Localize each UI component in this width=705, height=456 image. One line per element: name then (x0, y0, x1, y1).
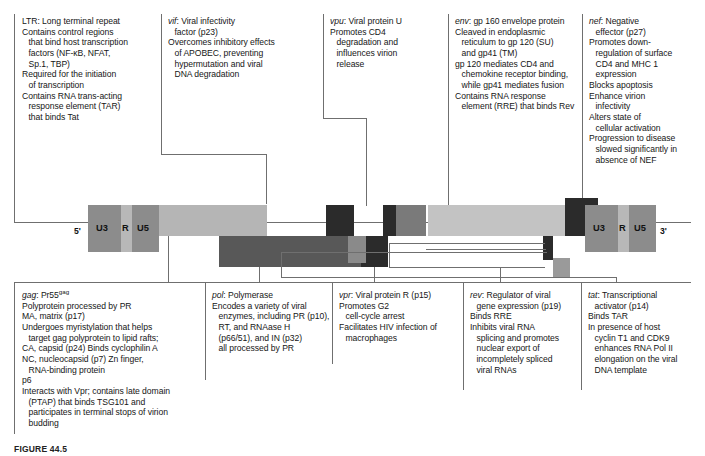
annotation-line: degradation and (330, 37, 455, 48)
annotation-tat: tat: Transcriptionalactivator (p14)Binds… (588, 290, 703, 375)
annotation-line: Binds RRE (470, 311, 588, 322)
leader-pol-v (259, 267, 260, 282)
annotation-line: (PTAP) that binds TSG101 and (22, 397, 202, 408)
divider-bottom-2 (205, 282, 206, 380)
annotation-line: Progression to disease (589, 133, 704, 144)
annotation-line: Contains control regions (22, 27, 172, 38)
annotation-line: Interacts with Vpr; contains late domain (22, 386, 202, 397)
annotation-line: RNA-binding protein (22, 365, 202, 376)
annotation-line: Promotes down- (589, 37, 704, 48)
splice-rail-rev-2 (389, 267, 545, 268)
annotation-line: Sp.1, TBP) (22, 59, 172, 70)
annotation-line: nef: Negative (589, 16, 704, 27)
annotation-line: Contains RNA trans-acting (22, 91, 172, 102)
annotation-vpu: vpu: Viral protein UPromotes CD4degradat… (330, 16, 455, 69)
gene-name: vpr (339, 290, 351, 300)
annotation-line: absence of NEF (589, 155, 704, 166)
gene-block-gag (159, 205, 267, 236)
ltr5-r-label: R (122, 224, 129, 233)
annotation-line: activator (p14) (588, 301, 703, 312)
splice-rail-tat-left (281, 252, 282, 278)
gene-block-tat-exon1 (348, 236, 366, 263)
annotation-line: viral RNAs (470, 365, 588, 376)
ltr5-u3-label: U3 (96, 224, 108, 233)
annotation-line: RT, and RNAase H (212, 322, 337, 333)
annotation-line: Alters state of (589, 112, 704, 123)
annotation-line: hypermutation and viral (168, 59, 313, 70)
annotation-line: that bind host transcription (22, 37, 172, 48)
annotation-line: DNA template (588, 365, 703, 376)
annotation-line: enzymes, including PR (p10), (212, 311, 337, 322)
gene-block-vpu (395, 205, 426, 236)
divider-top-5 (582, 14, 583, 210)
annotation-line: of APOBEC, preventing (168, 48, 313, 59)
annotation-line: LTR: Long terminal repeat (22, 16, 172, 27)
annotation-line: effector (p27) (589, 27, 704, 38)
annotation-line: cellular activation (589, 123, 704, 134)
three-prime-label: 3' (660, 227, 667, 236)
annotation-line: release (330, 59, 455, 70)
annotation-line: infectivity (589, 101, 704, 112)
gene-name: nef (589, 16, 601, 26)
annotation-line: influences virion (330, 48, 455, 59)
leader-vif-v (266, 154, 267, 204)
annotation-line: Facilitates HIV infection of (339, 322, 467, 333)
annotation-line: Promotes G2 (339, 301, 467, 312)
leader-vpu-h (323, 118, 367, 119)
annotation-line: Encodes a variety of viral (212, 301, 337, 312)
annotation-line: participates in terminal stops of virion (22, 407, 202, 418)
annotation-line: Required for the initiation (22, 69, 172, 80)
annotation-line: Overcomes inhibitory effects (168, 37, 313, 48)
annotation-line: cell-cycle arrest (339, 311, 467, 322)
annotation-line: factors (NF-κB, NFAT, (22, 48, 172, 59)
gene-block-rev-exon1 (383, 205, 396, 236)
superscript: gag (59, 288, 69, 295)
divider-bottom-1 (14, 282, 15, 434)
leader-rev-v (500, 267, 501, 282)
splice-rail-rev (389, 243, 545, 244)
annotation-line: that binds Tat (22, 112, 172, 123)
annotation-ltr: LTR: Long terminal repeatContains contro… (22, 16, 172, 123)
gene-block-vif (326, 205, 354, 236)
leader-vpu-v (366, 118, 367, 206)
annotation-nef: nef: Negativeeffector (p27)Promotes down… (589, 16, 704, 165)
genome-baseline-bottom (14, 282, 691, 283)
five-prime-label: 5' (74, 227, 81, 236)
splice-rail-vpu (426, 249, 546, 250)
divider-top-3 (323, 14, 324, 118)
annotation-line: gene expression (p19) (470, 301, 588, 312)
gene-name: vif (168, 16, 176, 26)
gene-name: gag (22, 290, 36, 300)
gene-block-rev-exon2 (543, 236, 553, 260)
annotation-line: vpr: Viral protein R (p15) (339, 290, 467, 301)
gene-name: vpu (330, 16, 344, 26)
annotation-line: MA, matrix (p17) (22, 311, 202, 322)
ltr5-u5-label: U5 (137, 224, 149, 233)
annotation-line: gag: Pr55gag (22, 290, 202, 301)
annotation-line: factor (p23) (168, 27, 313, 38)
annotation-line: p6 (22, 375, 202, 386)
splice-rail-rev-left (389, 243, 390, 268)
figure-caption: FIGURE 44.5 (14, 444, 67, 454)
leader-tat-h (561, 277, 617, 278)
annotation-line: cyclin T1 and CDK9 (588, 333, 703, 344)
ltr3-u3-label: U3 (593, 224, 605, 233)
splice-rail-tat (281, 252, 547, 253)
annotation-line: Blocks apoptosis (589, 80, 704, 91)
annotation-line: incompletely spliced (470, 354, 588, 365)
annotation-line: Inhibits viral RNA (470, 322, 588, 333)
annotation-line: Undergoes myristylation that helps (22, 322, 202, 333)
annotation-line: vif: Viral infectivity (168, 16, 313, 27)
gene-name: tat (588, 290, 597, 300)
annotation-line: (p66/51), and IN (p32) (212, 333, 337, 344)
annotation-line: rev: Regulator of viral (470, 290, 588, 301)
annotation-line: Enhance virion (589, 91, 704, 102)
annotation-line: slowed significantly in (589, 144, 704, 155)
divider-top-2 (161, 14, 162, 154)
hiv-genome-figure: LTR: Long terminal repeatContains contro… (0, 0, 705, 456)
annotation-pol: pol: PolymeraseEncodes a variety of vira… (212, 290, 337, 354)
annotation-line: regulation of surface (589, 48, 704, 59)
annotation-vif: vif: Viral infectivityfactor (p23)Overco… (168, 16, 313, 80)
divider-top-4 (448, 14, 449, 212)
annotation-line: CA, capsid (p24) Binds cyclophilin A (22, 343, 202, 354)
